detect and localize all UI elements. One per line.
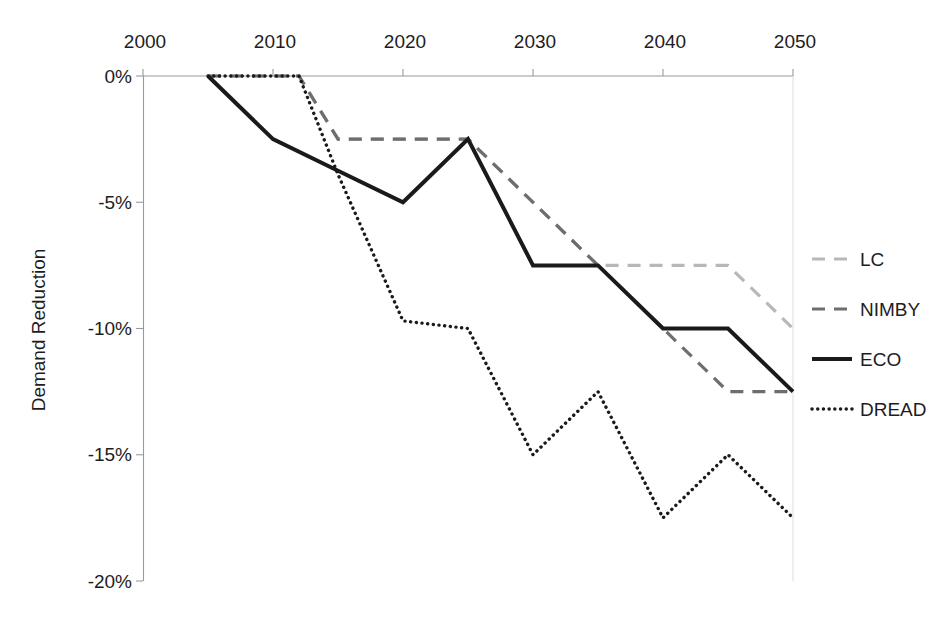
y-tick-label-0: 0% <box>105 66 133 87</box>
x-tick-label-2050: 2050 <box>774 31 816 52</box>
demand-reduction-line-chart: 0% -5% -10% -15% -20% 2000 2010 2020 203… <box>0 0 950 623</box>
x-tick-label-2020: 2020 <box>384 31 426 52</box>
y-tick-label-1: -5% <box>98 192 132 213</box>
x-tick-label-2000: 2000 <box>124 31 166 52</box>
y-tick-label-3: -15% <box>88 444 132 465</box>
x-tick-label-2030: 2030 <box>514 31 556 52</box>
legend-label-lc: LC <box>860 249 884 270</box>
x-tick-label-2040: 2040 <box>644 31 686 52</box>
y-axis-title: Demand Reduction <box>28 249 49 412</box>
x-tick-label-2010: 2010 <box>254 31 296 52</box>
legend-label-nimby: NIMBY <box>860 299 921 320</box>
chart-background <box>0 0 950 623</box>
legend-label-dread: DREAD <box>860 399 927 420</box>
legend-label-eco: ECO <box>860 349 901 370</box>
chart-container: 0% -5% -10% -15% -20% 2000 2010 2020 203… <box>0 0 950 623</box>
y-tick-label-2: -10% <box>88 318 132 339</box>
y-tick-label-4: -20% <box>88 571 132 592</box>
